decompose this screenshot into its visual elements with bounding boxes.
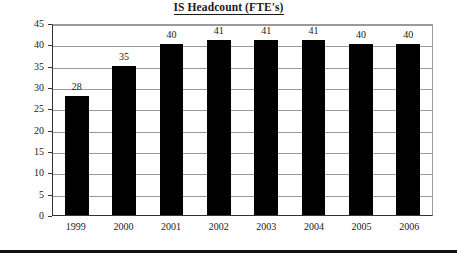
x-axis-tick-label: 1999: [52, 218, 100, 238]
x-axis-tick-label: 2003: [243, 218, 291, 238]
bar-value-label: 41: [214, 25, 224, 36]
bar-slot: 40: [337, 25, 384, 215]
y-axis-tick-mark: [48, 216, 52, 217]
x-axis-tick-label: 2002: [195, 218, 243, 238]
x-axis-tick-label: 2005: [338, 218, 386, 238]
y-axis-tick-label: 5: [39, 189, 44, 201]
bar-value-label: 41: [261, 25, 271, 36]
bottom-divider: [0, 250, 457, 253]
bar-slot: 41: [243, 25, 290, 215]
y-axis-tick-label: 20: [34, 125, 44, 137]
bar[interactable]: 40: [396, 44, 420, 215]
y-axis-tick-label: 25: [34, 103, 44, 115]
chart-title: IS Headcount (FTE's): [0, 1, 457, 13]
bar[interactable]: 40: [349, 44, 373, 215]
x-axis-tick-label: 2001: [147, 218, 195, 238]
bar-value-label: 40: [403, 29, 413, 40]
bar-slot: 40: [148, 25, 195, 215]
y-axis-tick-label: 35: [34, 61, 44, 73]
bar-value-label: 28: [72, 81, 82, 92]
bar-value-label: 41: [309, 25, 319, 36]
bar[interactable]: 40: [160, 44, 184, 215]
x-axis: 19992000200120022003200420052006: [52, 218, 433, 238]
plot-area: 2835404141414040: [52, 24, 433, 216]
y-axis: 454035302520151050: [0, 18, 52, 222]
bar-slot: 40: [385, 25, 432, 215]
y-axis-tick-label: 10: [34, 167, 44, 179]
x-axis-tick-label: 2006: [385, 218, 433, 238]
bar-value-label: 35: [119, 51, 129, 62]
bar[interactable]: 35: [112, 66, 136, 215]
chart-screenshot: IS Headcount (FTE's) 454035302520151050 …: [0, 0, 457, 260]
bar[interactable]: 41: [302, 40, 326, 215]
y-axis-tick-label: 0: [39, 210, 44, 222]
bar[interactable]: 28: [65, 96, 89, 215]
chart-title-text: IS Headcount (FTE's): [174, 1, 284, 15]
bar-value-label: 40: [166, 29, 176, 40]
bar-value-label: 40: [356, 29, 366, 40]
bar-series: 2835404141414040: [53, 25, 432, 215]
y-axis-tick-label: 40: [34, 39, 44, 51]
bar-slot: 28: [53, 25, 100, 215]
bar[interactable]: 41: [254, 40, 278, 215]
bar-slot: 41: [195, 25, 242, 215]
bar-slot: 35: [100, 25, 147, 215]
bar[interactable]: 41: [207, 40, 231, 215]
y-axis-tick-label: 15: [34, 146, 44, 158]
x-axis-tick-label: 2000: [100, 218, 148, 238]
y-axis-tick-label: 30: [34, 82, 44, 94]
x-axis-tick-label: 2004: [290, 218, 338, 238]
y-axis-tick-label: 45: [34, 18, 44, 30]
bar-slot: 41: [290, 25, 337, 215]
